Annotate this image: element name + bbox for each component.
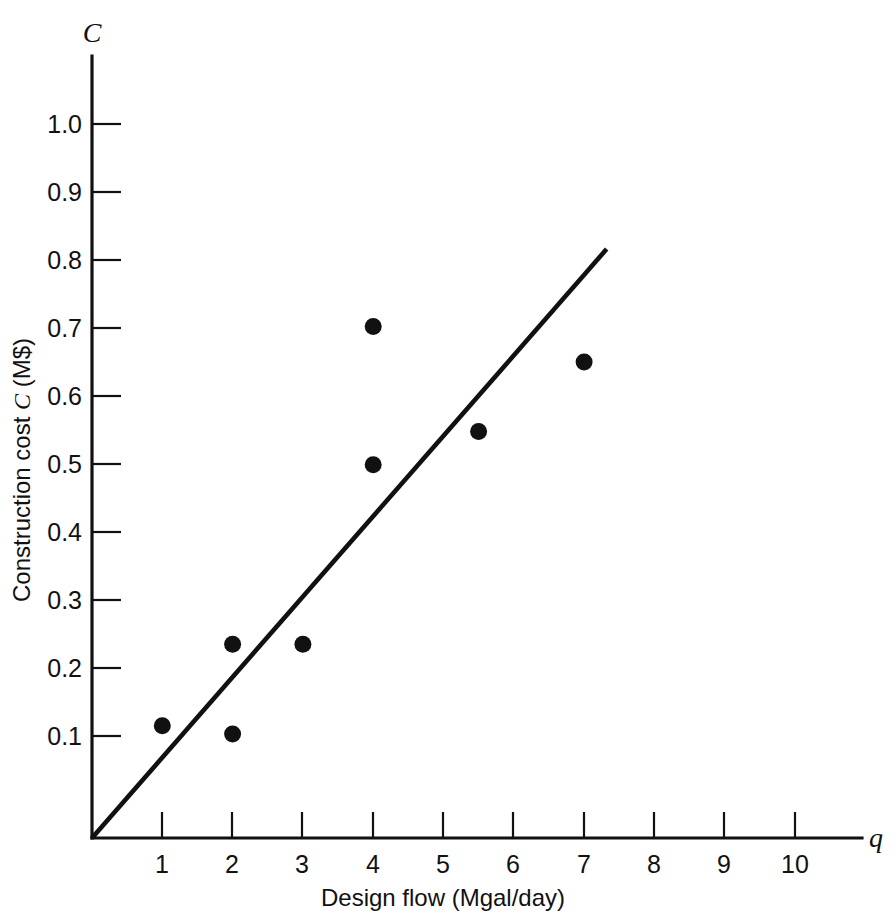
y-tick-label: 0.9: [47, 178, 82, 206]
data-point: [470, 423, 487, 440]
data-point: [365, 456, 382, 473]
scatter-chart: C q 1.0 0.9 0.8 0.7 0.6 0.5 0.4 0.3 0.2: [0, 0, 895, 915]
y-axis-title: Construction cost C (M$): [8, 338, 35, 602]
y-tick-label: 0.5: [47, 450, 82, 478]
x-tick-label: 8: [647, 850, 661, 878]
chart-figure: C q 1.0 0.9 0.8 0.7 0.6 0.5 0.4 0.3 0.2: [0, 0, 895, 915]
data-point: [576, 354, 593, 371]
y-tick-label: 0.4: [47, 518, 82, 546]
x-tick-label: 9: [717, 850, 731, 878]
x-axis-symbol: q: [869, 822, 883, 853]
y-tick-label: 0.2: [47, 654, 82, 682]
y-tick-label: 0.8: [47, 246, 82, 274]
chart-background: [0, 0, 895, 915]
x-tick-label: 6: [506, 850, 520, 878]
y-axis-title-suffix: (M$): [8, 338, 35, 394]
y-tick-label: 0.7: [47, 314, 82, 342]
y-axis-title-text: Construction cost C (M$): [8, 338, 35, 602]
data-point: [224, 726, 241, 743]
y-axis-title-prefix: Construction cost: [8, 410, 35, 602]
y-axis-title-italic-symbol: C: [9, 393, 35, 410]
y-axis-symbol: C: [83, 17, 102, 48]
data-point: [294, 636, 311, 653]
y-tick-label: 0.1: [47, 722, 82, 750]
x-tick-label: 7: [577, 850, 591, 878]
x-tick-label: 10: [781, 850, 809, 878]
data-point: [154, 717, 171, 734]
x-tick-label: 2: [225, 850, 239, 878]
y-tick-label: 0.3: [47, 586, 82, 614]
data-point: [224, 636, 241, 653]
x-tick-label: 4: [366, 850, 380, 878]
data-point: [365, 318, 382, 335]
y-tick-label: 0.6: [47, 382, 82, 410]
x-tick-label: 3: [295, 850, 309, 878]
x-axis-title: Design flow (Mgal/day): [321, 884, 565, 911]
x-tick-label: 5: [436, 850, 450, 878]
y-tick-label: 1.0: [47, 110, 82, 138]
x-tick-label: 1: [155, 850, 169, 878]
